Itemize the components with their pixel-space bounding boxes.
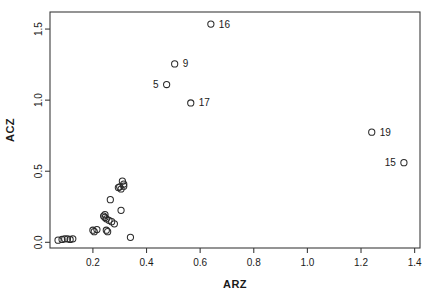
x-axis-ticks: 0.20.40.60.81.01.21.4 xyxy=(86,248,422,268)
point-label-9: 9 xyxy=(183,58,189,69)
point-label-17: 17 xyxy=(199,97,211,108)
x-axis-title: ARZ xyxy=(223,278,247,290)
point-label-5: 5 xyxy=(153,79,159,90)
data-point xyxy=(164,81,170,87)
data-point xyxy=(105,229,111,235)
data-point xyxy=(208,21,214,27)
point-labels: 5917161915 xyxy=(153,19,396,169)
data-point xyxy=(118,207,124,213)
x-tick-label: 0.8 xyxy=(247,257,261,268)
scatter-plot-figure: 0.20.40.60.81.01.21.4 0.00.51.01.5 59171… xyxy=(0,0,436,302)
data-point xyxy=(127,234,133,240)
x-tick-label: 0.4 xyxy=(140,257,154,268)
data-point xyxy=(401,160,407,166)
data-point xyxy=(188,100,194,106)
y-axis-ticks: 0.00.51.01.5 xyxy=(34,22,51,250)
y-tick-label: 1.5 xyxy=(34,22,45,36)
y-tick-label: 1.0 xyxy=(34,93,45,107)
point-label-16: 16 xyxy=(219,19,231,30)
y-axis-title: ACZ xyxy=(4,118,16,142)
y-tick-label: 0.5 xyxy=(34,164,45,178)
point-label-15: 15 xyxy=(385,157,397,168)
plot-canvas: 0.20.40.60.81.01.21.4 0.00.51.01.5 59171… xyxy=(0,0,436,302)
data-point xyxy=(369,129,375,135)
data-point xyxy=(107,197,113,203)
plot-frame xyxy=(50,12,420,248)
point-label-19: 19 xyxy=(380,127,392,138)
x-tick-label: 0.6 xyxy=(193,257,207,268)
x-tick-label: 1.0 xyxy=(300,257,314,268)
x-tick-label: 1.4 xyxy=(408,257,422,268)
data-point xyxy=(172,61,178,67)
y-tick-label: 0.0 xyxy=(34,235,45,249)
x-tick-label: 0.2 xyxy=(86,257,100,268)
data-points xyxy=(55,21,407,243)
x-tick-label: 1.2 xyxy=(354,257,368,268)
